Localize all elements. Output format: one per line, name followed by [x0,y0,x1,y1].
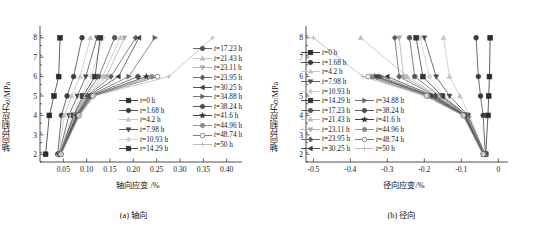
legend-label: t=17.23 h [321,107,350,114]
legend-item: t=17.23 h [300,106,350,116]
svg-text:0.30: 0.30 [173,165,186,174]
svg-text:-0.1: -0.1 [455,165,467,174]
legend-item: t=1.68 h [118,106,168,116]
svg-text:2: 2 [33,150,37,159]
legend-label: t=34.88 h [375,97,404,104]
legend-symbol [300,58,321,67]
legend-symbol [300,135,321,144]
legend-label: t=14.29 h [139,145,168,152]
legend-item: t=0 h [118,96,168,106]
legend-symbol [354,106,375,115]
legend-symbol [300,115,321,124]
legend-label: t=10.93 h [321,88,350,95]
svg-text:5: 5 [33,92,37,101]
legend-item: t=41.6 h [354,115,404,125]
legend-label: t=4.2 h [139,116,161,123]
legend-symbol [300,67,321,76]
legend-symbol [192,83,213,92]
legend-item: t=10.93 h [118,134,168,144]
panel-radial: 轴向控制应力σ/MPa 2345678-0.5-0.4-0.3-0.2-0.10… [268,0,535,229]
svg-text:0.10: 0.10 [80,165,93,174]
legend-symbol [192,73,213,82]
legend-item: t=38.24 h [192,102,242,112]
legend-symbol [192,121,213,130]
legend-label: t=14.29 h [321,97,350,104]
svg-text:-0.3: -0.3 [381,165,393,174]
legend-label: t=23.11 h [321,126,350,133]
legend-item: t=17.23 h [192,44,242,54]
legend-symbol [118,115,139,124]
legend-item: t=30.25 h [300,144,350,154]
legend-label: t=23.95 h [213,74,242,81]
legend-label: t=38.24 h [375,107,404,114]
legend-label: t=41.6 h [375,116,400,123]
svg-text:轴向应变 /%: 轴向应变 /% [116,180,159,190]
legend-item: t=23.95 h [300,134,350,144]
legend-label: t=0 h [139,97,155,104]
svg-text:-0.4: -0.4 [344,165,356,174]
legend-symbol [118,135,139,144]
legend-item: t=41.6 h [192,111,242,121]
legend-label: t=23.11 h [213,64,242,71]
figure-stress-strain-curves: 轴向控制应力σ/MPa 23456780.050.100.150.200.250… [0,0,535,229]
legend-item: t=7.98 h [300,77,350,87]
legend-symbol [300,77,321,86]
legend-symbol [354,115,375,124]
svg-text:-0.2: -0.2 [418,165,430,174]
legend-item: t=4.2 h [118,115,168,125]
legend-symbol [300,106,321,115]
svg-text:8: 8 [33,33,37,42]
legend-symbol [354,96,375,105]
legend-label: t=50 h [213,141,233,148]
legend-symbol [118,96,139,105]
panel-a-legend: t=0 ht=1.68 ht=4.2 ht=7.98 ht=10.93 ht=1… [118,96,168,154]
legend-item: t=0 h [300,48,350,58]
legend-label: t=21.43 h [321,116,350,123]
svg-text:-0.5: -0.5 [307,165,319,174]
legend-symbol [354,135,375,144]
legend-label: t=1.68 h [321,59,346,66]
legend-item: t=38.24 h [354,106,404,116]
legend-symbol [192,63,213,72]
legend-item: t=44.96 h [192,121,242,131]
legend-label: t=44.96 h [375,126,404,133]
legend-label: t=34.88 h [213,93,242,100]
panel-b-legend: t=0 ht=1.68 ht=4.2 ht=7.98 ht=10.93 ht=1… [300,48,404,154]
legend-symbol [354,125,375,134]
svg-text:0.20: 0.20 [127,165,140,174]
legend-item: t=10.93 h [300,86,350,96]
legend-label: t=1.68 h [139,107,164,114]
panel-axial: 轴向控制应力σ/MPa 23456780.050.100.150.200.250… [0,0,267,229]
legend-item: t=7.98 h [118,125,168,135]
legend-label: t=0 h [321,49,337,56]
legend-symbol [192,111,213,120]
legend-item: t=14.29 h [300,96,350,106]
legend-label: t=30.25 h [213,84,242,91]
svg-text:0.40: 0.40 [220,165,233,174]
legend-item: t=34.88 h [192,92,242,102]
legend-symbol [118,144,139,153]
legend-label: t=50 h [375,145,395,152]
legend-label: t=44.96 h [213,122,242,129]
legend-item: t=50 h [192,140,242,150]
legend-symbol [192,92,213,101]
legend-item: t=21.43 h [192,54,242,64]
legend-symbol [192,44,213,53]
legend-label: t=41.6 h [213,112,238,119]
legend-symbol [192,140,213,149]
legend-symbol [300,144,321,153]
legend-symbol [192,54,213,63]
legend-label: t=7.98 h [321,78,346,85]
svg-text:8: 8 [299,33,303,42]
legend-label: t=7.98 h [139,126,164,133]
svg-text:径向应变/%: 径向应变/% [383,180,424,190]
legend-label: t=4.2 h [321,68,343,75]
legend-label: t=21.43 h [213,55,242,62]
legend-item: t=21.43 h [300,115,350,125]
panel-b-caption: (b) 径向 [268,208,535,220]
panel-a-legend-2: t=17.23 ht=21.43 ht=23.11 ht=23.95 ht=30… [192,44,242,150]
legend-symbol [354,144,375,153]
legend-label: t=38.24 h [213,103,242,110]
legend-item: t=4.2 h [300,67,350,77]
legend-symbol [300,87,321,96]
